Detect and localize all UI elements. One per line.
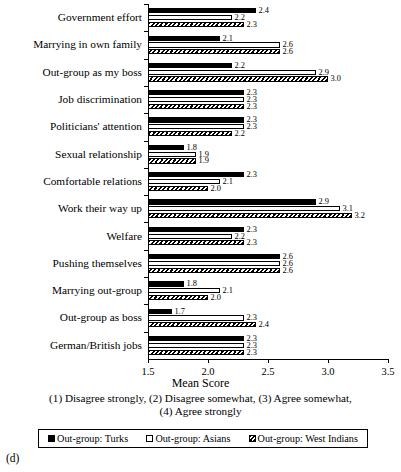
bar [148,90,244,95]
bar [148,63,232,68]
bar-group: 2.93.13.2 [148,199,388,218]
bar-group: 1.81.91.9 [148,145,388,164]
y-axis-label-2: Out-group as my boss [43,67,142,78]
bar [148,234,232,239]
bar [148,22,244,27]
bar-value-label: 2.1 [223,178,233,186]
bar-value-label: 2.0 [211,294,221,302]
bar [148,42,280,47]
bar [148,158,196,163]
y-axis-label-12: German/British jobs [50,340,142,351]
bar [148,97,244,102]
bar-value-label: 2.3 [247,226,257,234]
caption-line-1: (1) Disagree strongly, (2) Disagree some… [0,392,401,405]
y-axis-label-5: Sexual relationship [55,149,142,160]
bar [148,70,316,75]
legend-item-2: Out-group: West Indians [249,433,358,444]
y-axis-label-11: Out-group as boss [60,312,142,323]
bar [148,131,232,136]
x-tick-3 [328,359,329,363]
bar-group: 2.62.62.6 [148,254,388,273]
bar [148,206,340,211]
x-tick-0 [148,359,149,363]
bar-value-label: 2.6 [283,48,293,56]
bar [148,315,244,320]
legend-swatch-icon [48,435,55,442]
bar-value-label: 2.4 [259,7,269,15]
bar [148,124,244,129]
bar [148,309,172,314]
bar-group: 2.32.32.3 [148,336,388,355]
bar [148,104,244,109]
bar-value-label: 2.3 [247,171,257,179]
bar [148,145,184,150]
bar [148,49,280,54]
bar-value-label: 2.3 [247,239,257,247]
legend-item-1: Out-group: Asians [146,433,230,444]
x-axis-title: Mean Score [0,376,401,391]
y-axis-label-1: Marrying in own family [33,39,142,50]
bar-group: 1.82.12.0 [148,281,388,300]
bar-value-label: 2.3 [247,349,257,357]
panel-id-label: (d) [6,452,19,464]
bar-value-label: 2.3 [247,21,257,29]
bar-value-label: 2.6 [283,267,293,275]
bar [148,281,184,286]
bar [148,213,352,218]
bar-group: 2.22.93.0 [148,63,388,82]
bar [148,254,280,259]
bar [148,152,196,157]
bar-value-label: 2.0 [211,185,221,193]
bar-value-label: 2.1 [223,287,233,295]
y-tick [144,222,148,223]
y-axis-label-0: Government effort [58,12,142,23]
bar [148,186,208,191]
y-tick [144,332,148,333]
bar-group: 2.32.32.3 [148,90,388,109]
bar [148,227,244,232]
y-axis-label-8: Welfare [107,231,142,242]
legend-label: Out-group: West Indians [258,433,358,444]
y-axis-label-6: Comfortable relations [43,176,142,187]
bar [148,179,220,184]
bar [148,350,244,355]
bar-group: 2.12.62.6 [148,36,388,55]
y-tick [144,277,148,278]
bar [148,15,232,20]
figure-panel-d: Government effortMarrying in own familyO… [0,0,401,472]
legend-swatch-icon [146,435,153,442]
y-tick [144,86,148,87]
bar-group: 2.32.32.2 [148,117,388,136]
y-tick [144,250,148,251]
y-axis-label-3: Job discrimination [58,94,142,105]
bar [148,268,280,273]
y-axis-label-10: Marrying out-group [52,285,142,296]
y-tick [144,141,148,142]
bar [148,343,244,348]
chart-plot-area: Government effortMarrying in own familyO… [0,0,401,380]
bar [148,336,244,341]
bar [148,117,244,122]
legend-item-0: Out-group: Turks [48,433,128,444]
x-tick-4 [388,359,389,363]
bar [148,240,244,245]
bar-value-label: 1.9 [199,157,209,165]
bar-value-label: 2.3 [247,123,257,131]
y-axis-label-9: Pushing themselves [53,258,142,269]
bar-group: 1.72.32.4 [148,309,388,328]
y-tick [144,113,148,114]
caption-line-2: (4) Agree strongly [0,405,401,418]
bar [148,288,220,293]
bar-group: 2.42.22.3 [148,8,388,27]
bar [148,295,208,300]
bar [148,76,328,81]
y-tick [144,4,148,5]
y-axis-category-labels: Government effortMarrying in own familyO… [0,4,146,359]
bar-value-label: 2.4 [259,321,269,329]
bar-value-label: 2.2 [235,130,245,138]
bar [148,36,220,41]
legend-label: Out-group: Asians [155,433,230,444]
y-axis-label-7: Work their way up [58,203,142,214]
y-tick [144,168,148,169]
y-axis-label-4: Politicians' attention [50,121,142,132]
